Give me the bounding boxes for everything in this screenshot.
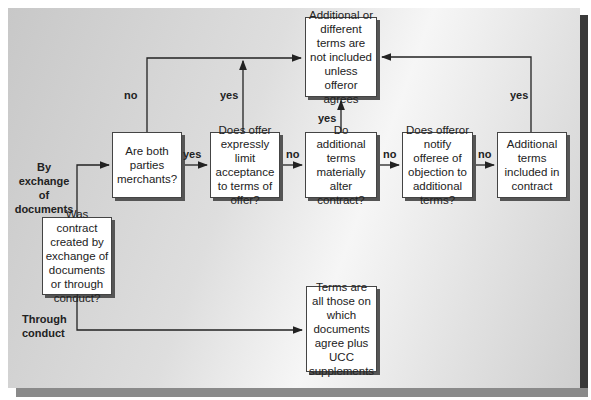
node-conduct-result: Terms are all those on which documents a…: [306, 286, 377, 372]
label-by-exchange: By exchange of documents: [14, 160, 74, 216]
label-merchants-no: no: [124, 88, 137, 102]
connector-lines: [0, 0, 591, 400]
label-alter-no: no: [383, 147, 396, 161]
node-not-included: Additional or different terms are not in…: [305, 17, 377, 97]
label-limit-no: no: [286, 147, 299, 161]
node-materially-alter: Do additional terms materially alter con…: [305, 132, 377, 198]
node-start-question: Was contract created by exchange of docu…: [42, 217, 112, 295]
node-notify-objection: Does offeror notify offeree of objection…: [402, 132, 473, 198]
label-merchants-yes: yes: [183, 147, 201, 161]
node-terms-included: Additional terms included in contract: [497, 132, 567, 198]
label-alter-yes: yes: [318, 111, 336, 125]
label-through-conduct: Through conduct: [22, 312, 72, 340]
node-merchants: Are both parties merchants?: [112, 132, 182, 198]
node-limit-acceptance: Does offer expressly limit acceptance to…: [210, 132, 280, 198]
label-notify-no: no: [478, 147, 491, 161]
label-limit-yes: yes: [220, 88, 238, 102]
label-notify-yes: yes: [510, 88, 528, 102]
